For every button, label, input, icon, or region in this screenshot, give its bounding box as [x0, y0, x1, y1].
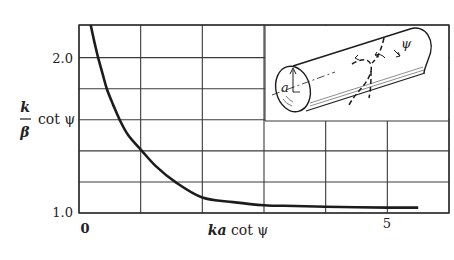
chart-figure: a ψ 2.0 1.0 0 5 ka cot ψ k β cot ψ — [0, 0, 454, 260]
y-tick-label-1-0: 1.0 — [52, 205, 73, 220]
x-axis-label: ka cot ψ — [208, 222, 269, 238]
inset-helix-diagram: a ψ — [265, 25, 449, 121]
y-axis-label-numerator: k — [20, 99, 30, 115]
inset-angle-label: ψ — [401, 36, 412, 51]
x-tick-label-0: 0 — [80, 221, 89, 236]
inset-radius-label: a — [281, 80, 289, 95]
x-axis-label-rest: cot ψ — [227, 222, 269, 238]
y-axis-label: k β cot ψ — [19, 99, 75, 140]
y-tick-label-2-0: 2.0 — [52, 51, 73, 66]
y-axis-label-denominator: β — [19, 124, 30, 140]
x-tick-label-5: 5 — [383, 216, 391, 231]
y-axis-label-rest: cot ψ — [38, 111, 75, 127]
x-axis-label-italic: ka — [208, 222, 227, 238]
